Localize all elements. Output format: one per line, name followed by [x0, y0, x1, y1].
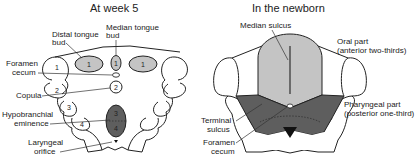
label-copula: Copula: [16, 91, 42, 100]
left-panel-week5: At week 5 1 2 3 4: [2, 2, 187, 156]
tongue-development-diagram: At week 5 1 2 3 4: [0, 0, 415, 162]
leader-foramen-cecum: [38, 73, 112, 75]
foramen-cecum-week5: [113, 73, 120, 77]
hypobranchial-number-4: 4: [114, 125, 118, 132]
copula-number: 2: [114, 84, 118, 91]
label-pharyngeal-part-line1: Pharyngeal part: [344, 100, 401, 109]
arch-number-1: 1: [55, 64, 59, 71]
label-laryngeal-line1: Laryngeal: [28, 138, 63, 147]
label-oral-part-line1: Oral part: [337, 37, 369, 46]
label-laryngeal-line2: orifice: [34, 147, 56, 156]
label-distal-tongue-bud-line2: bud: [52, 38, 65, 47]
median-bud-number: 1: [114, 60, 118, 67]
left-panel-title: At week 5: [90, 2, 138, 14]
leader-laryngeal: [60, 142, 112, 152]
label-terminal-sulcus-line2: sulcus: [207, 125, 230, 134]
bottom-notch: [102, 147, 128, 150]
laryngeal-orifice: [114, 140, 118, 143]
label-terminal-sulcus-line1: Terminal: [201, 116, 231, 125]
leader-distal-tongue-bud: [66, 43, 82, 58]
label-foramen-cecum-newborn-line1: Foramen: [203, 138, 235, 147]
label-foramen-cecum-newborn-line2: cecum: [211, 147, 235, 156]
distal-bud-right-number: 1: [141, 61, 145, 68]
label-foramen-cecum-line2: cecum: [12, 68, 36, 77]
distal-bud-left-number: 1: [87, 61, 91, 68]
arch-number-2: 2: [55, 87, 59, 94]
label-median-sulcus: Median sulcus: [240, 21, 291, 30]
arch-number-3: 3: [67, 104, 71, 111]
label-hypobranchial-line1: Hypobranchial: [2, 110, 53, 119]
hypobranchial-number-3: 3: [114, 110, 118, 117]
label-foramen-cecum-line1: Foramen: [6, 59, 38, 68]
label-hypobranchial-line2: eminence: [14, 119, 49, 128]
foramen-cecum-newborn: [287, 104, 293, 108]
label-oral-part-line2: (anterior two-thirds): [337, 46, 407, 55]
label-median-tongue-bud-line2: bud: [106, 31, 119, 40]
label-pharyngeal-part-line2: (posterior one-third): [344, 109, 415, 118]
right-panel-title: In the newborn: [252, 2, 325, 14]
leader-copula: [42, 88, 110, 96]
right-panel-newborn: In the newborn: [201, 2, 415, 156]
